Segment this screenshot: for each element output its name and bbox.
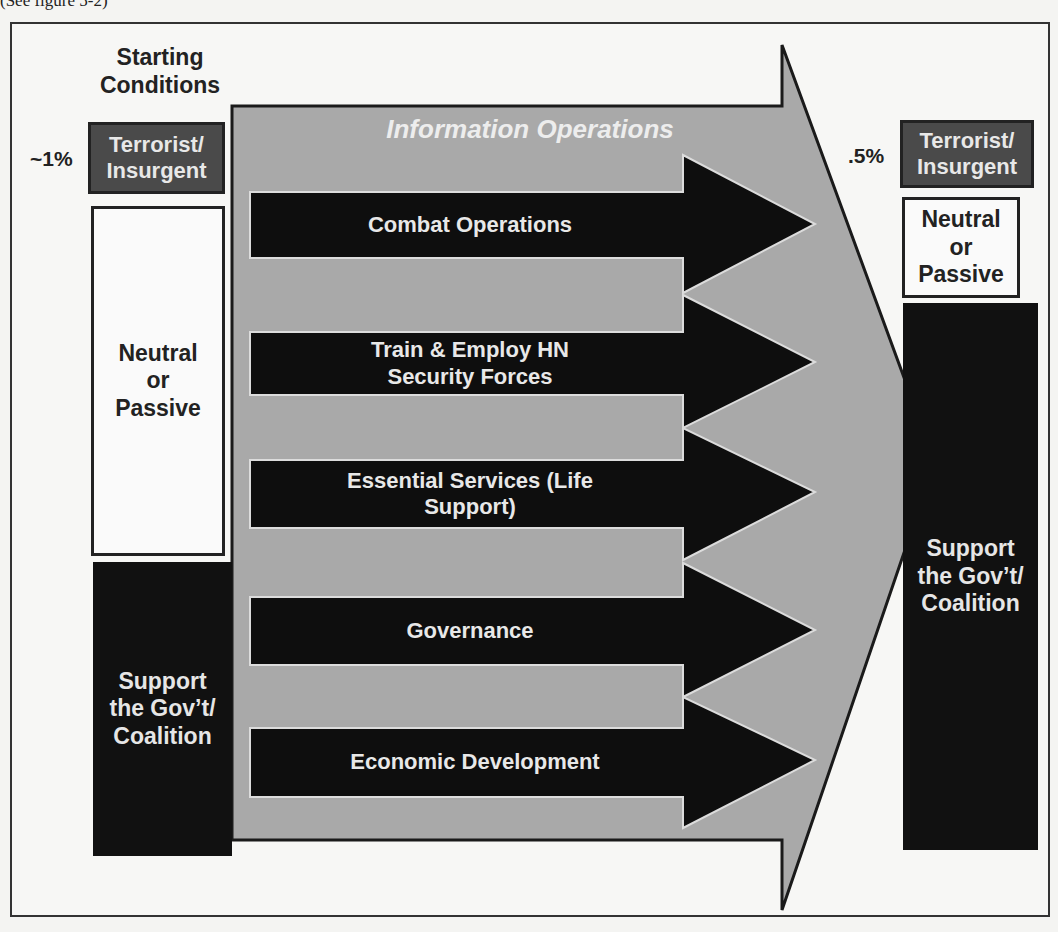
governance-label: Governance <box>280 597 660 665</box>
right-terrorist-box: Terrorist/ Insurgent <box>900 120 1034 188</box>
right-terrorist-label: Terrorist/ Insurgent <box>903 128 1031 181</box>
left-neutral-box: Neutral or Passive <box>91 206 225 556</box>
economic-development-label: Economic Development <box>250 728 700 797</box>
left-support-box: Support the Gov’t/ Coalition <box>93 562 232 856</box>
left-terrorist-percent: ~1% <box>30 147 73 171</box>
right-neutral-label: Neutral or Passive <box>916 206 1006 289</box>
left-terrorist-box: Terrorist/ Insurgent <box>88 122 225 194</box>
right-support-label: Support the Gov’t/ Coalition <box>916 535 1026 618</box>
starting-conditions-title: Starting Conditions <box>70 44 250 99</box>
right-terrorist-percent: .5% <box>848 144 884 168</box>
information-operations-title: Information Operations <box>330 114 730 145</box>
essential-services-label: Essential Services (Life Support) <box>340 460 600 528</box>
combat-operations-label: Combat Operations <box>280 192 660 258</box>
left-support-label: Support the Gov’t/ Coalition <box>108 668 218 751</box>
left-terrorist-label: Terrorist/ Insurgent <box>91 132 222 185</box>
right-support-box: Support the Gov’t/ Coalition <box>903 303 1038 850</box>
left-neutral-label: Neutral or Passive <box>113 340 203 423</box>
right-neutral-box: Neutral or Passive <box>902 197 1020 298</box>
train-employ-label: Train & Employ HN Security Forces <box>340 332 600 395</box>
